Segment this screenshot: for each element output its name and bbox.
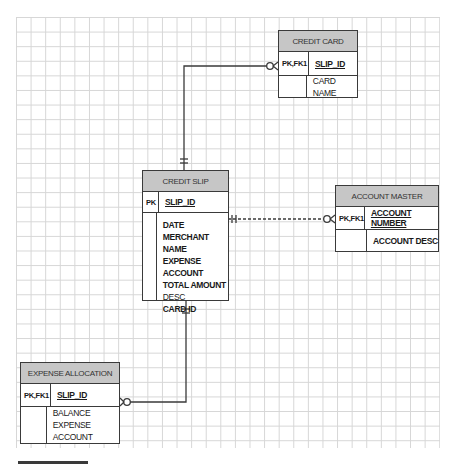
primary-key-attribute: ACCOUNT NUMBER	[371, 208, 438, 228]
entity-account-master[interactable]: ACCOUNT MASTER PK,FK1 ACCOUNT NUMBER ACC…	[335, 185, 439, 252]
key-label: PK,FK1	[21, 384, 51, 406]
key-label	[143, 213, 157, 300]
entity-title: CREDIT SLIP	[143, 171, 228, 192]
key-label	[336, 230, 367, 251]
primary-key-attribute: SLIP_ID	[165, 197, 195, 207]
attribute: BALANCE	[53, 407, 119, 419]
attribute: ACCOUNT DESC	[373, 235, 438, 247]
entity-key-row: PK,FK1 ACCOUNT NUMBER	[336, 207, 438, 230]
entity-attribute-row: CARD NAME	[279, 76, 357, 97]
relationship-creditslip-creditcard	[180, 62, 278, 170]
attribute: EXPENSE ACCOUNT	[53, 419, 119, 443]
entity-key-row: PK SLIP_ID	[143, 192, 228, 213]
key-label	[279, 76, 307, 97]
relationship-creditslip-accountmaster	[228, 215, 335, 223]
entity-attribute-row: ACCOUNT DESC	[336, 230, 438, 251]
attribute: DESC	[163, 291, 228, 303]
attribute: CARD ID	[163, 303, 228, 315]
entity-credit-card[interactable]: CREDIT CARD PK,FK1 SLIP_ID CARD NAME	[278, 30, 358, 98]
primary-key-attribute: SLIP_ID	[315, 59, 345, 69]
entity-key-row: PK,FK1 SLIP_ID	[279, 52, 357, 76]
attribute: CARD NAME	[313, 75, 357, 99]
entity-attribute-row: DATE MERCHANT NAME EXPENSE ACCOUNT TOTAL…	[143, 213, 228, 300]
key-label	[21, 407, 47, 443]
entity-key-row: PK,FK1 SLIP_ID	[21, 384, 119, 407]
attribute: EXPENSE ACCOUNT	[163, 255, 228, 279]
relationship-creditslip-expenseallocation	[120, 300, 190, 406]
key-label: PK,FK1	[336, 207, 365, 229]
entity-expense-allocation[interactable]: EXPENSE ALLOCATION PK,FK1 SLIP_ID BALANC…	[20, 362, 120, 444]
attribute: MERCHANT NAME	[163, 231, 228, 255]
primary-key-attribute: SLIP_ID	[57, 390, 87, 400]
entity-credit-slip[interactable]: CREDIT SLIP PK SLIP_ID DATE MERCHANT NAM…	[142, 170, 229, 301]
key-label: PK	[143, 192, 159, 212]
entity-title: CREDIT CARD	[279, 31, 357, 52]
key-label: PK,FK1	[279, 52, 309, 75]
attribute: TOTAL AMOUNT	[163, 279, 228, 291]
entity-attribute-row: BALANCE EXPENSE ACCOUNT	[21, 407, 119, 443]
attribute: DATE	[163, 219, 228, 231]
entity-title: ACCOUNT MASTER	[336, 186, 438, 207]
entity-title: EXPENSE ALLOCATION	[21, 363, 119, 384]
